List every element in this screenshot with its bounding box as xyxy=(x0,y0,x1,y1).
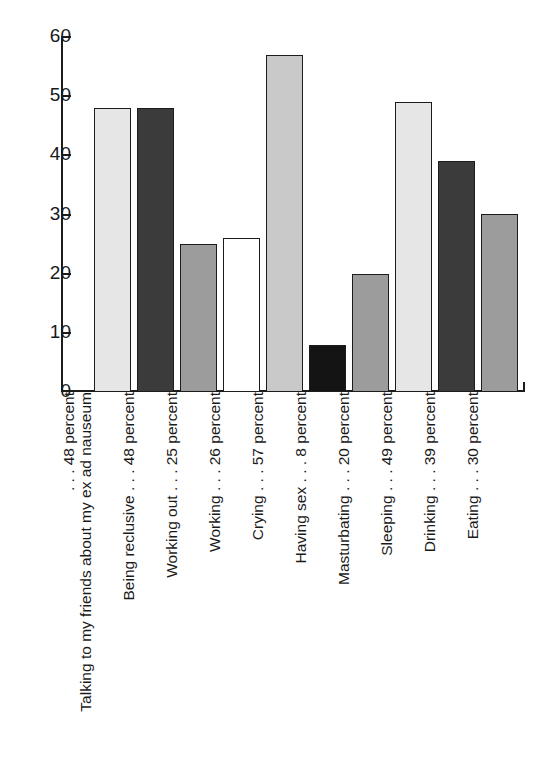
bar-being-reclusive xyxy=(137,108,174,392)
bar-masturbating xyxy=(352,274,389,392)
bar-having-sex xyxy=(309,345,346,392)
bar-eating xyxy=(481,214,518,392)
x-label-talking-to-friends-line1: Talking to my friends about my ex ad nau… xyxy=(77,392,94,712)
x-label-being-reclusive: Being reclusive . . . 48 percent xyxy=(120,392,137,601)
bar-working xyxy=(223,238,260,392)
x-label-masturbating: Masturbating . . . 20 percent xyxy=(335,392,352,585)
x-label-working: Working . . . 26 percent xyxy=(206,392,223,552)
bars-layer xyxy=(0,0,547,392)
bar-working-out xyxy=(180,244,217,392)
bar-crying xyxy=(266,55,303,392)
bar-sleeping xyxy=(395,102,432,392)
x-label-eating: Eating . . . 30 percent xyxy=(464,392,481,539)
x-label-drinking: Drinking . . . 39 percent xyxy=(421,392,438,552)
bar-talking-to-friends xyxy=(94,108,131,392)
x-axis-labels: Talking to my friends about my ex ad nau… xyxy=(0,392,547,776)
x-label-working-out: Working out . . . 25 percent xyxy=(163,392,180,578)
x-label-having-sex: Having sex . . . 8 percent xyxy=(292,392,309,563)
bar-chart: 60 50 40 30 20 10 0 xyxy=(0,0,547,776)
bar-drinking xyxy=(438,161,475,392)
x-label-talking-to-friends-line2: . . . 48 percent xyxy=(60,392,77,491)
x-label-sleeping: Sleeping . . . 49 percent xyxy=(378,392,395,556)
x-label-crying: Crying . . . 57 percent xyxy=(249,392,266,540)
plot-area: 60 50 40 30 20 10 0 xyxy=(0,0,547,400)
